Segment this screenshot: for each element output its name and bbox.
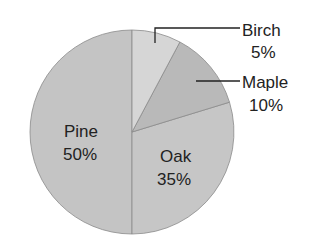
pie-slices bbox=[30, 30, 234, 234]
maple-name-label: Maple bbox=[242, 73, 288, 92]
oak-name-label: Oak bbox=[160, 147, 192, 166]
birch-value-label: 5% bbox=[251, 43, 276, 62]
maple-value-label: 10% bbox=[249, 96, 283, 115]
pine-value-label: 50% bbox=[63, 145, 97, 164]
pine-name-label: Pine bbox=[64, 122, 98, 141]
pie-chart: Birch 5% Maple 10% Oak 35% Pine 50% bbox=[0, 0, 309, 248]
oak-value-label: 35% bbox=[157, 170, 191, 189]
birch-name-label: Birch bbox=[242, 21, 281, 40]
